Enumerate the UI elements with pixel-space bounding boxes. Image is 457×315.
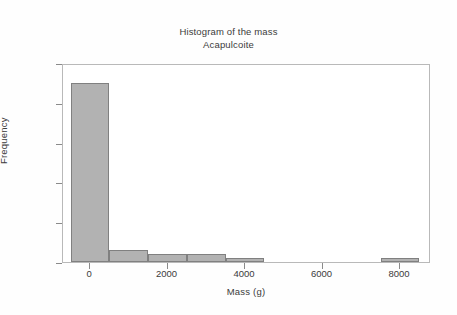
- histogram-figure: Histogram of the mass Acapulcoite Freque…: [0, 0, 457, 315]
- x-tick-mark: [399, 263, 400, 269]
- plot-frame: [62, 64, 430, 263]
- plot-area: [63, 65, 429, 262]
- chart-title-line-2: Acapulcoite: [0, 39, 457, 52]
- histogram-bar: [381, 258, 420, 262]
- x-tick-mark: [167, 263, 168, 269]
- x-tick-label: 8000: [369, 268, 429, 279]
- x-tick-mark: [322, 263, 323, 269]
- x-tick-label: 0: [59, 268, 119, 279]
- x-tick-label: 4000: [214, 268, 274, 279]
- x-tick-label: 2000: [137, 268, 197, 279]
- histogram-bar: [187, 254, 226, 262]
- chart-title: Histogram of the mass Acapulcoite: [0, 26, 457, 51]
- x-axis-label: Mass (g): [62, 286, 430, 297]
- y-tick-mark: [56, 263, 62, 264]
- histogram-bar: [109, 250, 148, 262]
- histogram-bar: [226, 258, 265, 262]
- chart-title-line-1: Histogram of the mass: [0, 26, 457, 39]
- x-tick-mark: [89, 263, 90, 269]
- histogram-bar: [148, 254, 187, 262]
- y-axis-label: Frequency: [0, 117, 9, 164]
- x-tick-label: 6000: [292, 268, 352, 279]
- histogram-bar: [71, 83, 110, 262]
- x-tick-mark: [244, 263, 245, 269]
